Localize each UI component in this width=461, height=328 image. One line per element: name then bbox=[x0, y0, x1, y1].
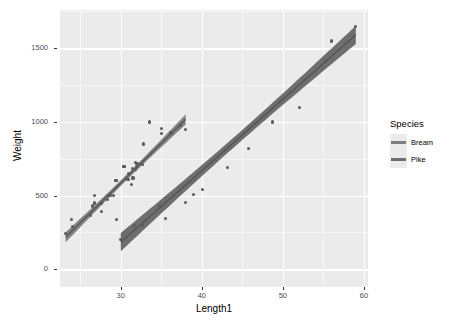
y-tick-label: 0 bbox=[14, 265, 48, 273]
legend-key-line bbox=[391, 158, 406, 161]
data-point bbox=[135, 165, 138, 168]
legend-key-swatch bbox=[390, 151, 407, 168]
data-point bbox=[134, 168, 137, 171]
data-point bbox=[122, 165, 125, 168]
plot-panel bbox=[60, 10, 368, 287]
fit-line-pike bbox=[121, 35, 356, 242]
data-point bbox=[131, 176, 134, 179]
legend-key-line bbox=[391, 141, 406, 144]
legend: Species BreamPike bbox=[390, 118, 460, 168]
y-tick-mark bbox=[54, 269, 57, 270]
data-point bbox=[271, 120, 274, 123]
x-tick-label: 40 bbox=[187, 292, 217, 300]
data-point bbox=[184, 201, 187, 204]
y-tick-label: 1500 bbox=[14, 44, 48, 52]
legend-key-swatch bbox=[390, 134, 407, 151]
chart-root: 050010001500 30405060 Length1 Weight Spe… bbox=[0, 0, 461, 328]
legend-title: Species bbox=[390, 118, 460, 129]
data-point bbox=[142, 142, 145, 145]
data-point bbox=[100, 201, 103, 204]
data-point bbox=[158, 204, 161, 207]
legend-label: Bream bbox=[411, 138, 433, 147]
legend-entry-bream[interactable]: Bream bbox=[390, 134, 460, 151]
data-point bbox=[133, 224, 136, 227]
data-point bbox=[141, 224, 144, 227]
data-point bbox=[70, 218, 73, 221]
x-tick-mark bbox=[202, 287, 203, 290]
data-point bbox=[164, 217, 167, 220]
y-tick-mark bbox=[54, 48, 57, 49]
data-point bbox=[148, 120, 151, 123]
x-axis-title: Length1 bbox=[60, 303, 368, 314]
data-point bbox=[135, 162, 138, 165]
fit-overlay bbox=[60, 10, 368, 287]
y-tick-mark bbox=[54, 122, 57, 123]
legend-entry-pike[interactable]: Pike bbox=[390, 151, 460, 168]
data-point bbox=[330, 39, 333, 42]
data-point bbox=[71, 225, 74, 228]
x-tick-mark bbox=[121, 287, 122, 290]
data-point bbox=[298, 106, 301, 109]
legend-entries: BreamPike bbox=[390, 134, 460, 168]
x-tick-label: 50 bbox=[268, 292, 298, 300]
x-tick-label: 60 bbox=[349, 292, 379, 300]
data-point bbox=[91, 204, 94, 207]
data-point bbox=[126, 178, 129, 181]
x-tick-mark bbox=[364, 287, 365, 290]
legend-label: Pike bbox=[411, 155, 426, 164]
data-point bbox=[141, 163, 144, 166]
x-tick-mark bbox=[283, 287, 284, 290]
y-axis-title: Weight bbox=[12, 91, 23, 201]
x-tick-label: 30 bbox=[106, 292, 136, 300]
data-point bbox=[169, 131, 172, 134]
y-tick-mark bbox=[54, 196, 57, 197]
